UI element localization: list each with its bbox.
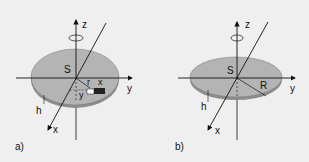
panel-a: z y x S r x y h a) xyxy=(15,19,132,152)
thickness-label: h xyxy=(36,105,42,116)
element-x-label: x xyxy=(98,77,103,87)
radius-label: r xyxy=(87,77,90,87)
element-y-label: y xyxy=(79,90,84,100)
y-label: y xyxy=(127,83,132,94)
z-label: z xyxy=(82,19,87,30)
x-label: x xyxy=(215,125,220,136)
volume-element-dark xyxy=(94,88,105,94)
caption-b: b) xyxy=(175,141,184,152)
volume-element-light xyxy=(87,89,94,94)
caption-a: a) xyxy=(15,141,24,152)
y-label: y xyxy=(290,83,295,94)
x-label: x xyxy=(53,124,58,135)
center-label: S xyxy=(227,65,234,76)
radius-label: R xyxy=(260,80,267,91)
thickness-label: h xyxy=(201,101,207,112)
z-label: z xyxy=(245,19,250,30)
center-label: S xyxy=(64,64,71,75)
diagram-frame: z y x S r x y h a) z y x S R h b) xyxy=(0,0,309,162)
disk-top xyxy=(190,57,282,97)
diagram-canvas: z y x S r x y h a) z y x S R h b) xyxy=(0,0,309,162)
panel-b: z y x S R h b) xyxy=(175,19,295,152)
